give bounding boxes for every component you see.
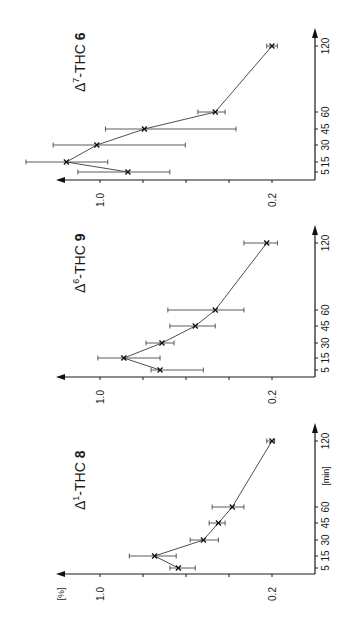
chart-panel-2: 1.00.2515304560120Δ6-THC 9 <box>56 225 331 404</box>
time-tick-label: 45 <box>320 123 331 135</box>
title-delta: Δ <box>72 501 88 510</box>
value-tick-label: 0.2 <box>267 390 278 404</box>
value-axis-arrow-icon <box>56 571 65 577</box>
time-axis-arrow-icon <box>312 28 318 38</box>
chart-panel-1: 1.00.2515304560120Δ7-THC 6 <box>26 28 331 207</box>
value-unit-label: [%] <box>56 587 66 600</box>
title-suffix: -THC <box>72 40 88 77</box>
time-tick-label: 60 <box>320 304 331 316</box>
value-tick-label: 0.2 <box>267 587 278 601</box>
value-tick-label: 1.0 <box>95 587 106 601</box>
title-suffix: -THC <box>72 241 88 278</box>
time-tick-label: 120 <box>320 37 331 54</box>
time-tick-label: 15 <box>320 550 331 562</box>
time-tick-label: 45 <box>320 320 331 332</box>
value-tick-label: 0.2 <box>267 193 278 207</box>
time-axis-arrow-icon <box>312 423 318 433</box>
chart-figure: 1.00.2515304560120Δ7-THC 61.00.251530456… <box>0 0 352 630</box>
title-suffix: -THC <box>72 458 88 495</box>
time-tick-label: 30 <box>320 534 331 546</box>
series-line <box>66 46 272 172</box>
time-tick-label: 5 <box>320 565 331 571</box>
title-compound-number: 6 <box>72 32 88 40</box>
value-tick-label: 1.0 <box>95 193 106 207</box>
title-compound-number: 9 <box>72 233 88 241</box>
series-line <box>155 441 272 568</box>
value-axis-arrow-icon <box>56 177 65 183</box>
panel-title: Δ6-THC 9 <box>71 233 88 293</box>
panel-title: Δ1-THC 8 <box>71 450 88 510</box>
time-tick-label: 60 <box>320 106 331 118</box>
time-unit-label: [min] <box>321 466 331 486</box>
chart-panel-3: 1.00.2515304560120[min][%]Δ1-THC 8 <box>56 423 331 601</box>
time-axis-arrow-icon <box>312 225 318 235</box>
time-tick-label: 5 <box>320 169 331 175</box>
time-tick-label: 30 <box>320 337 331 349</box>
time-tick-label: 45 <box>320 517 331 529</box>
time-tick-label: 5 <box>320 367 331 373</box>
time-tick-label: 120 <box>320 432 331 449</box>
panel-title: Δ7-THC 6 <box>71 32 88 92</box>
time-tick-label: 15 <box>320 156 331 168</box>
title-delta: Δ <box>72 83 88 92</box>
series-line <box>124 243 267 370</box>
value-tick-label: 1.0 <box>95 390 106 404</box>
title-delta: Δ <box>72 284 88 293</box>
chart-canvas: 1.00.2515304560120Δ7-THC 61.00.251530456… <box>0 0 352 630</box>
time-tick-label: 30 <box>320 139 331 151</box>
time-tick-label: 60 <box>320 501 331 513</box>
value-axis-arrow-icon <box>56 374 65 380</box>
time-tick-label: 15 <box>320 352 331 364</box>
title-compound-number: 8 <box>72 450 88 458</box>
time-tick-label: 120 <box>320 234 331 251</box>
